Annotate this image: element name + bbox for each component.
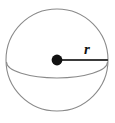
sphere-diagram-canvas: r (0, 0, 115, 123)
radius-label-r: r (84, 41, 90, 57)
sphere-diagram-figure: r (0, 0, 115, 123)
center-point-dot (52, 55, 63, 66)
